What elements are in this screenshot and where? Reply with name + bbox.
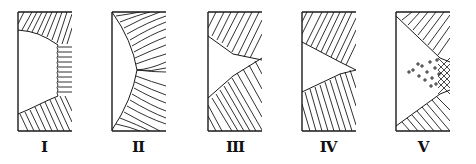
panel-III [208, 12, 262, 131]
panel-label-III: III [215, 138, 255, 156]
panel-label-II: II [118, 138, 158, 156]
panel-I [18, 12, 72, 131]
panel-IV [302, 12, 356, 131]
panel-label-I: I [24, 138, 64, 156]
panel-V [396, 12, 450, 131]
panel-label-V: V [403, 138, 443, 156]
equiaxed-crosses [407, 58, 441, 88]
panel-II [112, 12, 166, 131]
panel-label-IV: IV [308, 138, 348, 156]
